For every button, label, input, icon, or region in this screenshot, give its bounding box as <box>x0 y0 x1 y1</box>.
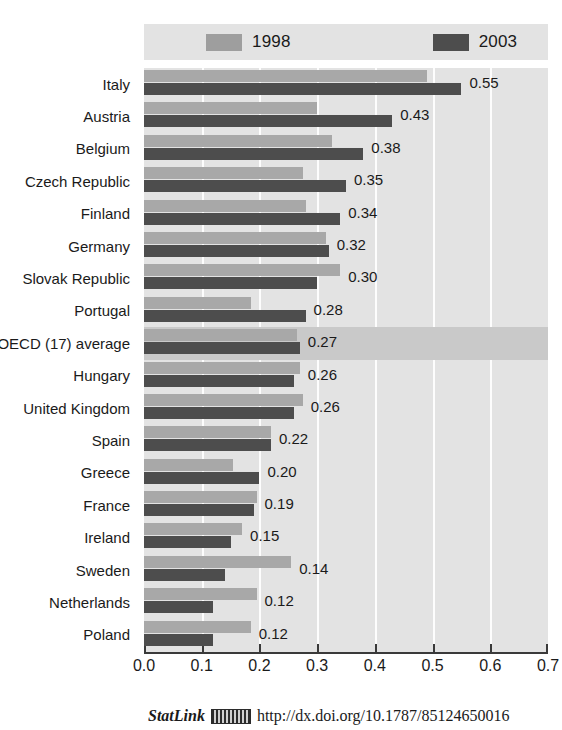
bar-row: 0.38 <box>144 133 548 165</box>
bar-1998 <box>144 362 300 374</box>
category-label: Czech Republic <box>0 165 138 197</box>
bar-row: 0.15 <box>144 521 548 553</box>
bar-2003 <box>144 472 259 484</box>
bar-1998 <box>144 523 242 535</box>
category-label: Ireland <box>0 521 138 553</box>
bar-value-label: 0.32 <box>337 236 366 253</box>
bar-row: 0.28 <box>144 295 548 327</box>
value-axis: 0.00.10.20.30.40.50.60.7 <box>144 652 548 692</box>
axis-tick-label: 0.1 <box>191 657 213 675</box>
bar-2003 <box>144 342 300 354</box>
bar-2003 <box>144 407 294 419</box>
legend-item-2003: 2003 <box>433 32 518 52</box>
bar-value-label: 0.30 <box>348 268 377 285</box>
category-label: United Kingdom <box>0 392 138 424</box>
axis-tick-label: 0.3 <box>306 657 328 675</box>
axis-tick-label: 0.6 <box>479 657 501 675</box>
bar-row: 0.22 <box>144 424 548 456</box>
bar-row: 0.26 <box>144 392 548 424</box>
category-label: OECD (17) average <box>0 327 138 359</box>
bar-rows: 0.550.430.380.350.340.320.300.280.270.26… <box>144 68 548 651</box>
bar-2003 <box>144 601 213 613</box>
bar-1998 <box>144 426 271 438</box>
bar-value-label: 0.20 <box>267 463 296 480</box>
bar-value-label: 0.55 <box>469 74 498 91</box>
bar-2003 <box>144 439 271 451</box>
category-label: Netherlands <box>0 586 138 618</box>
bar-value-label: 0.38 <box>371 139 400 156</box>
bar-1998 <box>144 297 251 309</box>
axis-line <box>144 652 548 654</box>
bar-row: 0.26 <box>144 360 548 392</box>
category-label: Germany <box>0 230 138 262</box>
bar-value-label: 0.26 <box>308 366 337 383</box>
category-label: Italy <box>0 68 138 100</box>
statlink-label: StatLink <box>148 707 205 725</box>
bar-2003 <box>144 277 317 289</box>
bar-2003 <box>144 569 225 581</box>
bar-2003 <box>144 634 213 646</box>
bar-row: 0.14 <box>144 554 548 586</box>
bar-row: 0.20 <box>144 457 548 489</box>
statlink-footer: StatLink http://dx.doi.org/10.1787/85124… <box>148 704 562 728</box>
bar-2003 <box>144 310 306 322</box>
bar-1998 <box>144 459 233 471</box>
category-axis: ItalyAustriaBelgiumCzech RepublicFinland… <box>0 68 138 652</box>
bar-2003 <box>144 83 461 95</box>
bar-1998 <box>144 264 340 276</box>
category-label: Slovak Republic <box>0 262 138 294</box>
bar-1998 <box>144 200 306 212</box>
bar-row: 0.30 <box>144 262 548 294</box>
axis-tick-label: 0.4 <box>364 657 386 675</box>
bar-row: 0.43 <box>144 100 548 132</box>
axis-tick-label: 0.2 <box>248 657 270 675</box>
category-label: Portugal <box>0 295 138 327</box>
bar-value-label: 0.28 <box>314 301 343 318</box>
category-label: Finland <box>0 198 138 230</box>
category-label: Spain <box>0 424 138 456</box>
bar-2003 <box>144 115 392 127</box>
bar-2003 <box>144 536 231 548</box>
bar-1998 <box>144 232 326 244</box>
bar-value-label: 0.12 <box>265 592 294 609</box>
category-label: Belgium <box>0 133 138 165</box>
bar-2003 <box>144 180 346 192</box>
category-label: Poland <box>0 619 138 651</box>
bar-1998 <box>144 588 257 600</box>
category-label: Hungary <box>0 360 138 392</box>
legend-swatch-1998-icon <box>206 34 242 51</box>
bar-row: 0.34 <box>144 198 548 230</box>
chart-body: ItalyAustriaBelgiumCzech RepublicFinland… <box>0 68 562 658</box>
legend-item-1998: 1998 <box>206 32 291 52</box>
chart-page: 1998 2003 ItalyAustriaBelgiumCzech Repub… <box>0 0 562 730</box>
category-label: France <box>0 489 138 521</box>
statlink-barcode-icon <box>211 709 251 724</box>
bar-value-label: 0.35 <box>354 171 383 188</box>
bar-value-label: 0.14 <box>299 560 328 577</box>
category-label: Sweden <box>0 554 138 586</box>
bar-value-label: 0.26 <box>311 398 340 415</box>
legend-label-1998: 1998 <box>252 32 291 52</box>
bar-1998 <box>144 394 303 406</box>
category-label: Greece <box>0 457 138 489</box>
bar-value-label: 0.43 <box>400 106 429 123</box>
legend-swatch-2003-icon <box>433 34 469 51</box>
axis-tick-label: 0.5 <box>421 657 443 675</box>
bar-value-label: 0.27 <box>308 333 337 350</box>
bar-1998 <box>144 102 317 114</box>
bar-row: 0.32 <box>144 230 548 262</box>
bar-1998 <box>144 70 427 82</box>
bar-row: 0.55 <box>144 68 548 100</box>
category-label: Austria <box>0 100 138 132</box>
chart-legend: 1998 2003 <box>144 24 548 60</box>
bar-row: 0.12 <box>144 619 548 651</box>
bar-2003 <box>144 148 363 160</box>
bar-1998 <box>144 621 251 633</box>
bar-1998 <box>144 329 297 341</box>
bar-2003 <box>144 245 329 257</box>
bar-row: 0.12 <box>144 586 548 618</box>
statlink-url[interactable]: http://dx.doi.org/10.1787/85124650016 <box>257 707 510 725</box>
axis-tick-label: 0.0 <box>133 657 155 675</box>
bar-value-label: 0.19 <box>265 495 294 512</box>
bar-value-label: 0.15 <box>250 527 279 544</box>
